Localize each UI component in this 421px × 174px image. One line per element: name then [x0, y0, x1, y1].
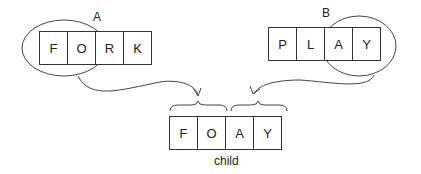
gene-cell: O	[197, 116, 226, 150]
child-chromosome: F O A Y	[170, 116, 282, 150]
parent-b-chromosome: P L A Y	[269, 27, 381, 61]
gene-cell: R	[95, 31, 124, 65]
gene-cell: K	[123, 31, 152, 65]
gene-cell: O	[67, 31, 96, 65]
gene-cell: Y	[352, 27, 381, 61]
gene-cell: A	[225, 116, 254, 150]
gene-cell: F	[39, 31, 68, 65]
gene-cell: Y	[253, 116, 282, 150]
gene-cell: L	[296, 27, 325, 61]
child-label: child	[214, 154, 239, 168]
parent-b-label: B	[322, 6, 330, 20]
gene-cell: F	[169, 116, 198, 150]
parent-a-chromosome: F O R K	[40, 31, 152, 65]
gene-cell: P	[268, 27, 297, 61]
parent-a-label: A	[93, 10, 101, 24]
gene-cell: A	[324, 27, 353, 61]
